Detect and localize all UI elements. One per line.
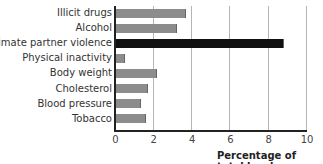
gridline — [268, 6, 269, 131]
category-label: Intimate partner violence — [0, 37, 112, 48]
gridline — [229, 6, 230, 131]
category-label: Illicit drugs — [57, 7, 112, 18]
x-axis-title: Percentage of total burden — [217, 150, 323, 164]
gridline — [306, 6, 307, 131]
bar-alcohol — [115, 24, 177, 33]
bar-blood-pressure — [115, 99, 141, 108]
bar-tobacco — [115, 114, 146, 123]
category-label: Cholesterol — [56, 83, 112, 94]
bar-cholesterol — [115, 84, 148, 93]
x-tick-label: 0 — [112, 134, 118, 145]
x-axis-line — [114, 130, 307, 132]
x-tick-label: 2 — [151, 134, 157, 145]
y-axis-line — [114, 6, 116, 131]
category-label: Physical inactivity — [22, 52, 112, 63]
x-tick-label: 6 — [227, 134, 233, 145]
bar-physical-inactivity — [115, 54, 125, 63]
bar-illicit-drugs — [115, 9, 186, 18]
category-label: Alcohol — [76, 22, 112, 33]
category-label: Body weight — [50, 67, 112, 78]
x-tick-label: 4 — [189, 134, 195, 145]
bar-intimate-partner-violence — [115, 39, 284, 48]
gridline — [191, 6, 192, 131]
x-tick-label: 10 — [301, 134, 314, 145]
bar-body-weight — [115, 69, 157, 78]
x-tick-label: 8 — [266, 134, 272, 145]
category-label: Tobacco — [72, 113, 112, 124]
category-label: Blood pressure — [37, 98, 112, 109]
horizontal-bar-chart: 0246810Illicit drugsAlcoholIntimate part… — [0, 0, 323, 164]
